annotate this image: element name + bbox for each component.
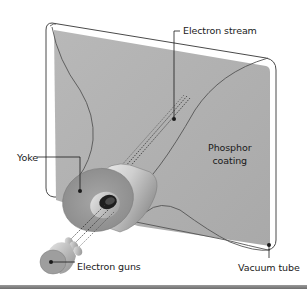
- crt-diagram: [0, 0, 307, 292]
- label-electron-stream: Electron stream: [183, 25, 257, 36]
- vacuum-tube-inner-edge: [50, 24, 56, 26]
- label-vacuum-tube: Vacuum tube: [238, 262, 300, 273]
- label-electron-guns: Electron guns: [77, 261, 141, 272]
- label-phosphor-coating: Phosphor coating: [208, 141, 251, 167]
- label-phosphor-line1: Phosphor: [208, 141, 251, 154]
- bottom-divider-bar: [0, 285, 307, 289]
- label-yoke: Yoke: [17, 152, 38, 163]
- label-phosphor-line2: coating: [208, 154, 251, 167]
